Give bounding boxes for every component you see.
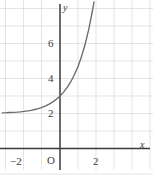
y-tick-label-6: 6 xyxy=(48,38,54,49)
exponential-graph-figure: 6 4 2 −2 2 O y x xyxy=(0,0,153,180)
x-tick-label-2: 2 xyxy=(93,156,99,167)
x-axis-name: x xyxy=(140,140,144,150)
y-tick-label-2: 2 xyxy=(48,108,54,119)
y-tick-label-4: 4 xyxy=(48,73,54,84)
vertical-gridlines xyxy=(6,0,151,170)
x-tick-label-neg-2: −2 xyxy=(10,156,22,167)
plot-area xyxy=(0,0,153,180)
y-axis-name: y xyxy=(63,3,67,13)
origin-label: O xyxy=(47,155,55,166)
